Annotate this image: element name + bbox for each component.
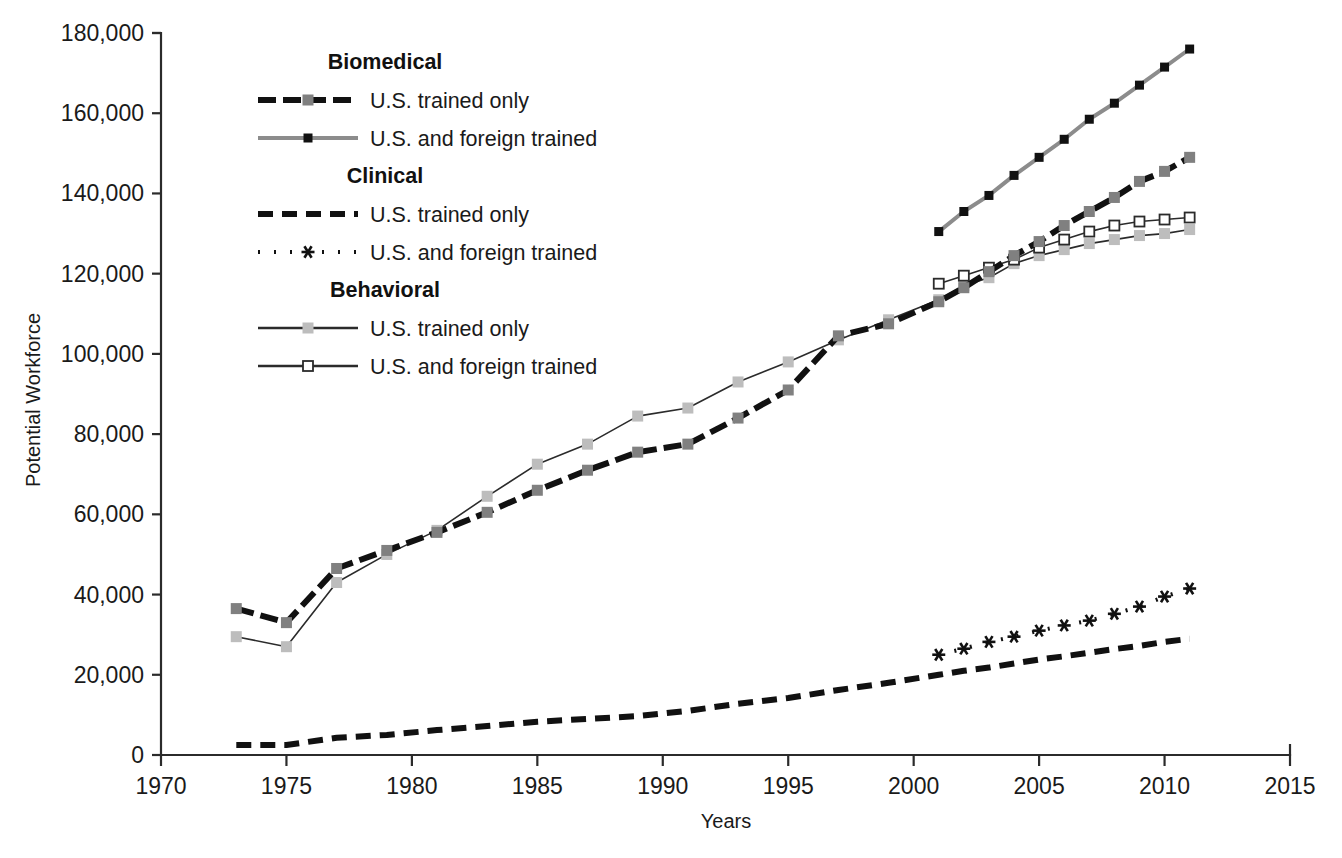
series-3 (932, 583, 1196, 661)
legend-item[interactable]: U.S. and foreign trained (258, 355, 597, 379)
legend-item-label: U.S. and foreign trained (370, 127, 597, 151)
series-1 (934, 45, 1194, 237)
data-point-marker (959, 207, 968, 216)
series-line (236, 157, 1189, 622)
data-point-marker (303, 95, 314, 106)
data-point-marker (1184, 152, 1195, 163)
x-tick-label: 1980 (386, 773, 437, 799)
data-point-marker (934, 279, 944, 289)
data-point-marker (1033, 625, 1046, 636)
data-point-marker (1008, 631, 1021, 642)
y-tick-label: 100,000 (61, 341, 144, 367)
legend-group-heading: Biomedical (328, 50, 443, 74)
data-point-marker (1034, 236, 1045, 247)
x-axis-title: Years (701, 810, 751, 832)
data-point-marker (482, 507, 493, 518)
data-point-marker (959, 271, 969, 281)
data-point-marker (682, 439, 693, 450)
data-point-marker (1159, 166, 1170, 177)
data-point-marker (281, 641, 292, 652)
y-tick-label: 40,000 (74, 582, 144, 608)
data-point-marker (982, 636, 995, 647)
data-point-marker (833, 330, 844, 341)
y-tick-label: 180,000 (61, 20, 144, 46)
data-point-marker (1160, 63, 1169, 72)
data-point-marker (1010, 171, 1019, 180)
y-tick-label: 0 (131, 742, 144, 768)
data-point-marker (1109, 234, 1120, 245)
data-point-marker (932, 649, 945, 660)
y-axis-title: Potential Workforce (22, 313, 44, 487)
data-point-marker (1059, 244, 1070, 255)
data-point-marker (1109, 192, 1120, 203)
x-tick-label: 2000 (888, 773, 939, 799)
data-point-marker (1060, 135, 1069, 144)
data-point-marker (958, 282, 969, 293)
y-tick-label: 120,000 (61, 261, 144, 287)
data-point-marker (1135, 81, 1144, 90)
chart-container: 020,00040,00060,00080,000100,000120,0001… (0, 0, 1342, 858)
data-point-marker (783, 356, 794, 367)
data-point-marker (632, 447, 643, 458)
data-point-marker (1109, 221, 1119, 231)
series-2 (236, 639, 1189, 745)
data-point-marker (1059, 220, 1070, 231)
legend-item-label: U.S. trained only (370, 89, 529, 113)
data-point-marker (532, 485, 543, 496)
data-point-marker (1083, 615, 1096, 626)
legend-item-label: U.S. and foreign trained (370, 241, 597, 265)
data-point-marker (1158, 591, 1171, 602)
data-point-marker (331, 577, 342, 588)
data-point-marker (482, 491, 493, 502)
data-point-marker (302, 246, 315, 257)
legend-item-label: U.S. trained only (370, 203, 529, 227)
data-point-marker (984, 191, 993, 200)
y-tick-label: 160,000 (61, 100, 144, 126)
data-point-marker (957, 643, 970, 654)
x-tick-label: 2015 (1264, 773, 1315, 799)
y-tick-label: 60,000 (74, 501, 144, 527)
data-point-marker (303, 361, 313, 371)
data-point-marker (934, 227, 943, 236)
data-point-marker (1134, 176, 1145, 187)
data-point-marker (983, 266, 994, 277)
data-point-marker (1133, 601, 1146, 612)
y-tick-label: 80,000 (74, 421, 144, 447)
data-point-marker (231, 603, 242, 614)
data-point-marker (1084, 227, 1094, 237)
data-point-marker (1185, 45, 1194, 54)
legend-item[interactable]: U.S. and foreign trained (258, 127, 597, 151)
y-tick-label: 140,000 (61, 180, 144, 206)
line-chart: 020,00040,00060,00080,000100,000120,0001… (0, 0, 1342, 858)
data-point-marker (1058, 620, 1071, 631)
data-point-marker (1009, 250, 1020, 261)
data-point-marker (532, 459, 543, 470)
data-point-marker (1110, 99, 1119, 108)
data-point-marker (1084, 206, 1095, 217)
data-point-marker (883, 318, 894, 329)
data-point-marker (783, 384, 794, 395)
x-tick-label: 1970 (135, 773, 186, 799)
data-point-marker (582, 439, 593, 450)
x-tick-label: 2010 (1139, 773, 1190, 799)
legend-item[interactable]: U.S. trained only (258, 203, 529, 227)
y-tick-label: 20,000 (74, 662, 144, 688)
legend-item[interactable]: U.S. and foreign trained (258, 241, 597, 265)
x-tick-label: 1985 (512, 773, 563, 799)
data-point-marker (1108, 608, 1121, 619)
data-point-marker (231, 631, 242, 642)
data-point-marker (1134, 230, 1145, 241)
chart-legend: BiomedicalU.S. trained onlyU.S. and fore… (258, 50, 597, 379)
data-point-marker (682, 403, 693, 414)
data-point-marker (431, 527, 442, 538)
data-point-marker (303, 323, 314, 334)
data-point-marker (933, 296, 944, 307)
data-point-marker (1185, 213, 1195, 223)
legend-group-heading: Clinical (347, 164, 423, 188)
legend-item-label: U.S. trained only (370, 317, 529, 341)
legend-item[interactable]: U.S. trained only (258, 89, 529, 113)
data-point-marker (1134, 217, 1144, 227)
data-point-marker (1184, 224, 1195, 235)
data-point-marker (281, 617, 292, 628)
legend-item[interactable]: U.S. trained only (258, 317, 529, 341)
